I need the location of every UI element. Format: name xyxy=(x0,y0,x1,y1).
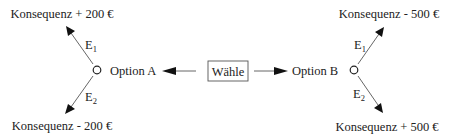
option-a: Option A E1 Konsequenz + 200 € E2 Konseq… xyxy=(10,7,156,133)
arrowhead-icon xyxy=(162,67,176,75)
arrowhead-icon xyxy=(374,103,383,113)
consequence-b-e2: Konsequenz + 500 € xyxy=(335,120,439,134)
option-b-label: Option B xyxy=(292,64,338,78)
chance-node-icon xyxy=(350,66,358,74)
choice-node: Wähle xyxy=(208,61,248,81)
option-b: Option B E1 Konsequenz - 500 € E2 Konseq… xyxy=(292,7,440,134)
option-a-label: Option A xyxy=(110,64,156,78)
consequence-a-e1: Konsequenz + 200 € xyxy=(10,7,114,21)
event-label-e2: E2 xyxy=(353,87,365,103)
event-label-e2: E2 xyxy=(85,90,97,106)
consequence-a-e2: Konsequenz - 200 € xyxy=(12,119,113,133)
decision-diagram: Wähle Option A E1 Konsequenz + 200 € E2 … xyxy=(0,0,455,138)
choice-label: Wähle xyxy=(212,65,245,79)
arrowhead-icon xyxy=(274,67,288,75)
arrowhead-icon xyxy=(375,27,384,37)
arrow-to-option-a xyxy=(162,67,196,75)
arrow-to-option-b xyxy=(254,67,288,75)
event-label-e1: E1 xyxy=(354,38,366,54)
consequence-b-e1: Konsequenz - 500 € xyxy=(339,7,440,21)
chance-node-icon xyxy=(93,66,101,74)
arrowhead-icon xyxy=(66,26,75,36)
arrowhead-icon xyxy=(65,104,75,114)
event-label-e1: E1 xyxy=(85,38,97,54)
